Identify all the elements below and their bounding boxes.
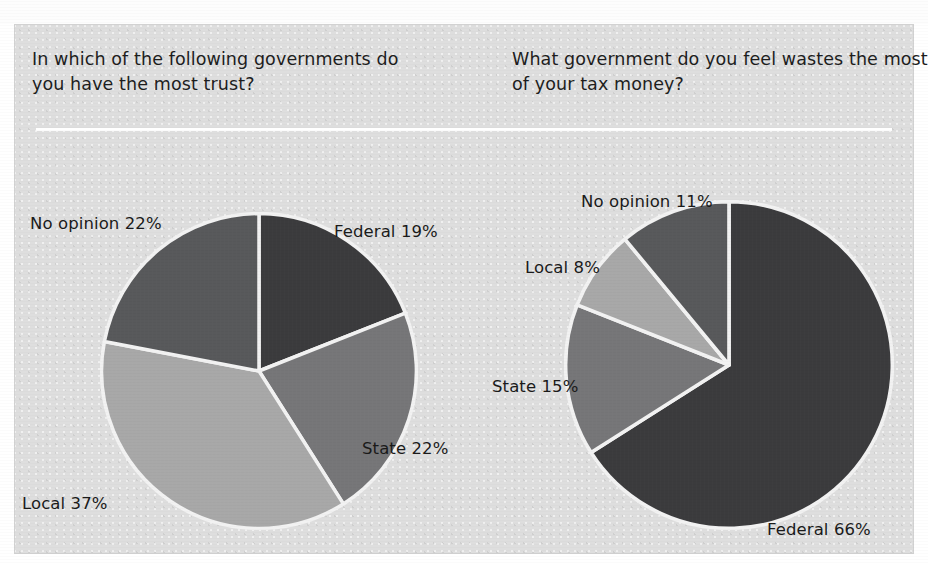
slice-label-local: Local 8%	[525, 258, 600, 278]
chart-heading-trust: In which of the following governments do…	[32, 47, 462, 97]
slice-label-no-opinion: No opinion 22%	[30, 214, 162, 234]
clipped-text-strip: by any of these people in managing the g…	[0, 0, 928, 24]
pie-svg-trust	[100, 212, 418, 530]
pie-chart-waste: No opinion 11% Local 8% State 15% Federa…	[464, 142, 914, 552]
pie-slice-no-opinion	[104, 214, 259, 371]
slice-label-local: Local 37%	[22, 494, 108, 514]
figure-page: by any of these people in managing the g…	[0, 0, 928, 563]
pie-graphic-waste	[564, 200, 894, 530]
clipped-text-line: by any of these people in managing the g…	[26, 0, 460, 1]
horizontal-rule	[36, 128, 892, 131]
slice-label-federal: Federal 19%	[334, 222, 438, 242]
pie-svg-waste	[564, 200, 894, 530]
pie-chart-trust: No opinion 22% Federal 19% State 22% Loc…	[14, 142, 464, 552]
slice-label-state: State 15%	[492, 377, 579, 397]
slice-label-state: State 22%	[362, 439, 449, 459]
slice-label-no-opinion: No opinion 11%	[581, 192, 713, 212]
slice-label-federal: Federal 66%	[767, 520, 871, 540]
figure-panel: In which of the following governments do…	[14, 24, 914, 554]
chart-heading-waste: What government do you feel wastes the m…	[512, 47, 928, 97]
pie-graphic-trust	[100, 212, 418, 530]
